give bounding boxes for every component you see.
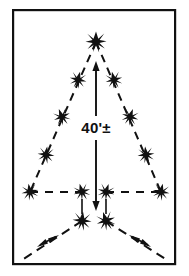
planting-layout-figure: 40'±: [0, 0, 189, 276]
plant-marker-left-upper: [68, 70, 89, 91]
plant-marker-right-mid: [119, 106, 141, 128]
dimension-label: 40'±: [81, 119, 110, 136]
splay-arrow-left-shaft: [40, 237, 56, 246]
dimension-arrowhead-down: [92, 201, 99, 211]
splay-arrow-right-shaft: [132, 237, 148, 246]
dimension-arrowhead-up: [92, 61, 99, 71]
splay-arrow-right: [129, 235, 151, 247]
plant-marker-right-lower: [137, 146, 156, 165]
splay-arrow-left: [37, 235, 59, 247]
plant-marker-left-lower: [36, 145, 55, 164]
plant-marker-left-mid: [51, 106, 73, 128]
plant-marker-base-inner-left: [71, 181, 92, 202]
plant-marker-apex: [86, 32, 107, 53]
dimension-arrow: [92, 61, 99, 211]
plant-marker-right-upper: [104, 70, 125, 91]
diagram-canvas: 40'±: [0, 0, 189, 276]
plant-marker-vertex-left: [72, 211, 93, 232]
